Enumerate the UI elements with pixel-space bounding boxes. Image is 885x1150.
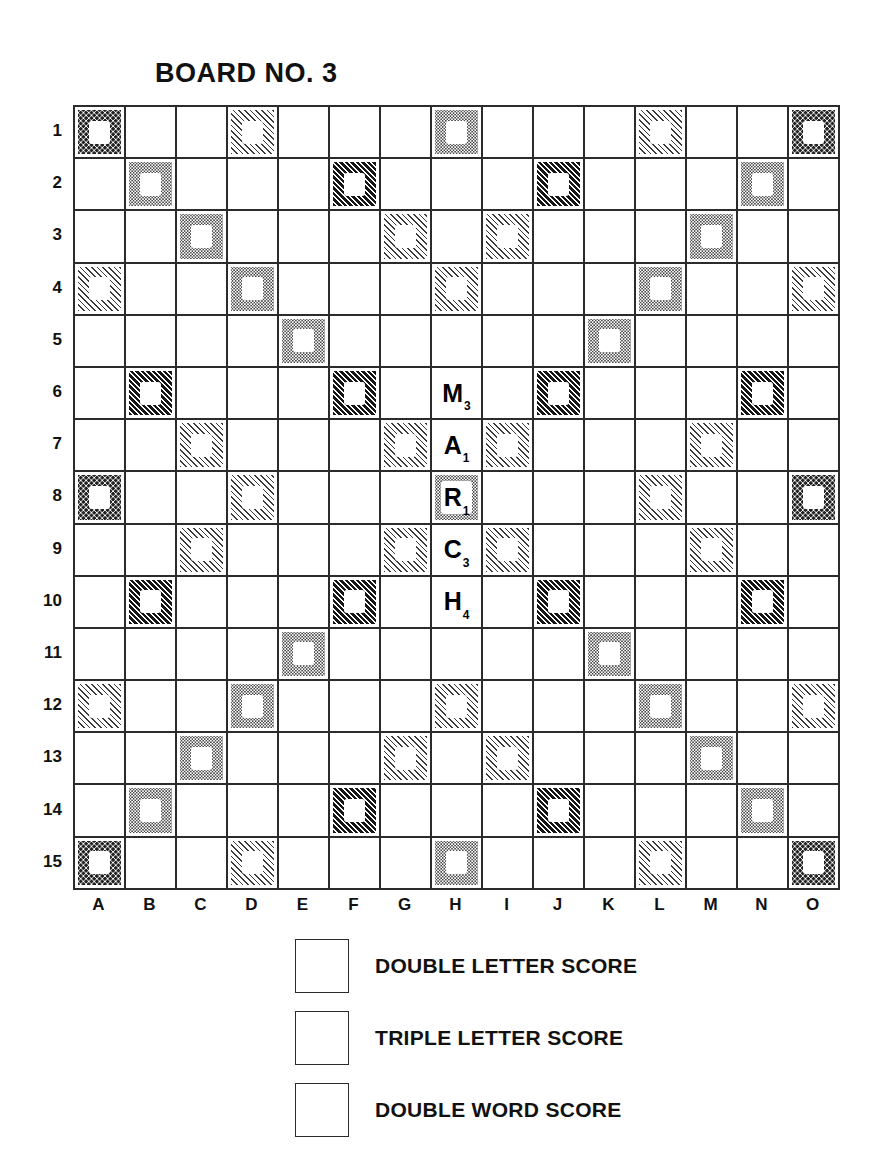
board-square-J5[interactable] [534, 316, 585, 368]
board-square-N3[interactable] [738, 211, 789, 263]
board-square-I10[interactable] [483, 577, 534, 629]
board-square-O12[interactable] [789, 681, 840, 733]
board-square-E9[interactable] [279, 525, 330, 577]
board-square-J13[interactable] [534, 733, 585, 785]
board-square-E3[interactable] [279, 211, 330, 263]
board-square-G7[interactable] [381, 420, 432, 472]
board-square-F13[interactable] [330, 733, 381, 785]
board-square-G14[interactable] [381, 785, 432, 837]
board-square-I12[interactable] [483, 681, 534, 733]
board-square-C4[interactable] [177, 264, 228, 316]
board-square-N8[interactable] [738, 472, 789, 524]
board-square-O10[interactable] [789, 577, 840, 629]
board-square-N4[interactable] [738, 264, 789, 316]
board-square-M15[interactable] [687, 838, 738, 890]
board-square-H5[interactable] [432, 316, 483, 368]
board-square-C11[interactable] [177, 629, 228, 681]
board-square-C13[interactable] [177, 733, 228, 785]
board-square-C1[interactable] [177, 107, 228, 159]
board-square-G8[interactable] [381, 472, 432, 524]
board-square-I7[interactable] [483, 420, 534, 472]
board-square-B8[interactable] [126, 472, 177, 524]
board-square-N11[interactable] [738, 629, 789, 681]
board-square-I6[interactable] [483, 368, 534, 420]
board-square-A11[interactable] [75, 629, 126, 681]
board-square-B11[interactable] [126, 629, 177, 681]
board-square-L8[interactable] [636, 472, 687, 524]
board-square-C10[interactable] [177, 577, 228, 629]
board-square-F2[interactable] [330, 159, 381, 211]
board-square-M13[interactable] [687, 733, 738, 785]
board-square-B10[interactable] [126, 577, 177, 629]
board-square-H12[interactable] [432, 681, 483, 733]
board-square-C3[interactable] [177, 211, 228, 263]
board-square-B4[interactable] [126, 264, 177, 316]
board-square-D1[interactable] [228, 107, 279, 159]
board-square-F11[interactable] [330, 629, 381, 681]
board-square-B1[interactable] [126, 107, 177, 159]
board-square-F15[interactable] [330, 838, 381, 890]
board-square-E6[interactable] [279, 368, 330, 420]
board-square-A15[interactable] [75, 838, 126, 890]
board-square-H9[interactable]: C3 [432, 525, 483, 577]
board-square-D7[interactable] [228, 420, 279, 472]
board-square-K10[interactable] [585, 577, 636, 629]
board-square-K7[interactable] [585, 420, 636, 472]
board-square-A3[interactable] [75, 211, 126, 263]
board-square-K8[interactable] [585, 472, 636, 524]
board-square-B3[interactable] [126, 211, 177, 263]
board-square-N12[interactable] [738, 681, 789, 733]
board-square-D14[interactable] [228, 785, 279, 837]
board-square-H2[interactable] [432, 159, 483, 211]
board-square-A7[interactable] [75, 420, 126, 472]
board-square-A4[interactable] [75, 264, 126, 316]
board-square-B6[interactable] [126, 368, 177, 420]
board-square-N5[interactable] [738, 316, 789, 368]
board-square-E7[interactable] [279, 420, 330, 472]
board-square-L3[interactable] [636, 211, 687, 263]
board-square-B2[interactable] [126, 159, 177, 211]
board-square-E10[interactable] [279, 577, 330, 629]
board-square-A9[interactable] [75, 525, 126, 577]
board-square-L7[interactable] [636, 420, 687, 472]
board-square-L1[interactable] [636, 107, 687, 159]
board-square-G2[interactable] [381, 159, 432, 211]
board-square-I15[interactable] [483, 838, 534, 890]
board-square-M4[interactable] [687, 264, 738, 316]
board-square-E11[interactable] [279, 629, 330, 681]
board-square-A2[interactable] [75, 159, 126, 211]
board-square-H10[interactable]: H4 [432, 577, 483, 629]
board-square-E4[interactable] [279, 264, 330, 316]
board-square-F4[interactable] [330, 264, 381, 316]
board-square-G12[interactable] [381, 681, 432, 733]
board-square-K6[interactable] [585, 368, 636, 420]
board-square-N7[interactable] [738, 420, 789, 472]
board-square-J1[interactable] [534, 107, 585, 159]
board-square-F9[interactable] [330, 525, 381, 577]
board-square-G11[interactable] [381, 629, 432, 681]
board-square-L4[interactable] [636, 264, 687, 316]
board-square-L13[interactable] [636, 733, 687, 785]
board-square-C15[interactable] [177, 838, 228, 890]
board-square-O6[interactable] [789, 368, 840, 420]
board-square-H6[interactable]: M3 [432, 368, 483, 420]
board-square-F7[interactable] [330, 420, 381, 472]
board-square-G4[interactable] [381, 264, 432, 316]
tile-H6[interactable]: M3 [432, 368, 481, 418]
board-square-J10[interactable] [534, 577, 585, 629]
board-square-D13[interactable] [228, 733, 279, 785]
board-square-A12[interactable] [75, 681, 126, 733]
board-square-F8[interactable] [330, 472, 381, 524]
board-square-M11[interactable] [687, 629, 738, 681]
tile-H7[interactable]: A1 [432, 420, 481, 470]
board-square-B15[interactable] [126, 838, 177, 890]
board-square-I9[interactable] [483, 525, 534, 577]
board-square-I3[interactable] [483, 211, 534, 263]
board-square-D2[interactable] [228, 159, 279, 211]
board-square-L6[interactable] [636, 368, 687, 420]
board-square-J3[interactable] [534, 211, 585, 263]
board-square-M8[interactable] [687, 472, 738, 524]
board-square-N6[interactable] [738, 368, 789, 420]
board-square-F1[interactable] [330, 107, 381, 159]
board-square-B7[interactable] [126, 420, 177, 472]
